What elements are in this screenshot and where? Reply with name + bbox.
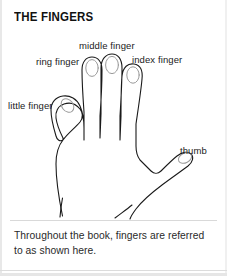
label-thumb: thumb <box>180 145 207 156</box>
nail-ring <box>86 60 98 77</box>
caption-divider <box>10 220 217 221</box>
label-little-finger: little finger <box>8 100 53 111</box>
figure-caption: Throughout the book, fingers are referre… <box>14 228 214 258</box>
label-index-finger: index finger <box>132 54 182 65</box>
hand-outline-svg <box>0 28 227 220</box>
page-title: THE FINGERS <box>14 10 93 24</box>
hand-diagram <box>0 28 227 220</box>
label-middle-finger: middle finger <box>79 40 135 51</box>
nail-index <box>127 67 139 83</box>
hand-silhouette-path <box>51 54 193 219</box>
figure-page: THE FINGERS middle finger ring finger in… <box>0 0 227 276</box>
page-edge-bottom-hairline <box>0 270 227 271</box>
label-ring-finger: ring finger <box>36 56 79 67</box>
wrist-line-right <box>115 205 132 218</box>
nail-middle <box>106 56 119 73</box>
